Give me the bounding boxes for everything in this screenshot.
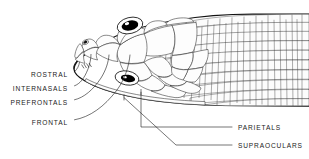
label-prefrontals: PREFRONTALS: [10, 99, 68, 106]
label-supraoculars: SUPRAOCULARS: [238, 142, 303, 149]
label-parietals: PARIETALS: [238, 124, 281, 131]
scale-parietal-right: [172, 22, 197, 55]
rostral-hatching: [82, 63, 92, 68]
label-group-left: ROSTRAL INTERNASALS PREFRONTALS FRONTAL: [10, 71, 68, 126]
label-frontal: FRONTAL: [32, 119, 68, 126]
snake-head-scale-diagram: ROSTRAL INTERNASALS PREFRONTALS FRONTAL …: [0, 0, 309, 159]
label-group-right: PARIETALS SUPRAOCULARS: [238, 124, 303, 149]
label-rostral: ROSTRAL: [31, 71, 68, 78]
label-internasals: INTERNASALS: [13, 85, 68, 92]
head-shield-scales-group: [75, 18, 208, 105]
